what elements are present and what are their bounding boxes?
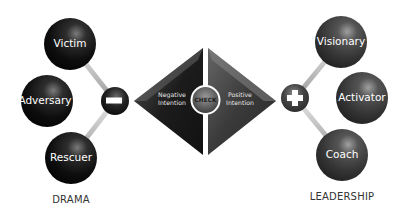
node-victim: Victim [44, 18, 96, 70]
node-activator: Activator [336, 72, 388, 124]
node-victim-label: Victim [54, 37, 87, 49]
node-rescuer: Rescuer [45, 132, 97, 184]
leadership-label: LEADERSHIP [310, 191, 375, 202]
negative-intention-line1: Negative [158, 91, 186, 99]
node-coach-label: Coach [326, 148, 359, 160]
positive-intention-line1: Positive [228, 91, 252, 98]
minus-connector [101, 87, 129, 115]
node-adversary: Adversary [18, 75, 73, 127]
negative-intention-line2: Intention [158, 99, 186, 106]
drama-label: DRAMA [52, 194, 90, 205]
node-adversary-label: Adversary [18, 94, 71, 106]
check-label: CHECK [195, 97, 217, 103]
intention-diamond: Negative Intention Positive Intention CH… [134, 48, 276, 155]
node-visionary-label: Visionary [317, 35, 365, 47]
node-visionary: Visionary [315, 16, 367, 68]
node-activator-label: Activator [338, 91, 386, 103]
plus-connector [281, 84, 309, 112]
positive-intention-line2: Intention [226, 99, 254, 106]
node-coach: Coach [316, 129, 368, 181]
minus-icon [106, 98, 122, 104]
node-rescuer-label: Rescuer [50, 151, 93, 163]
drama-leadership-diagram: Victim Adversary Rescuer DRAMA Negative … [0, 0, 411, 217]
